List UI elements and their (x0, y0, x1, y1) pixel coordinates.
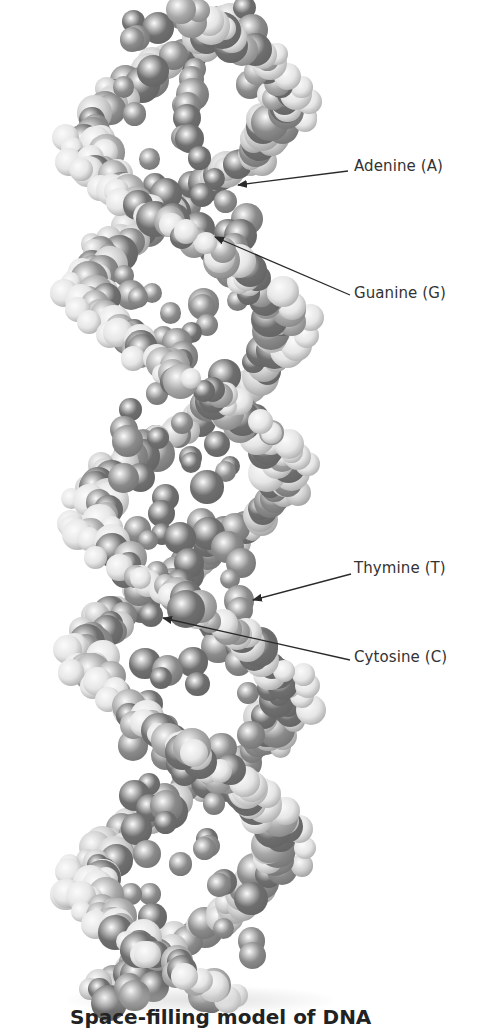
atom-sphere (213, 918, 234, 939)
atom-sphere (137, 55, 169, 87)
atom-sphere (188, 146, 211, 169)
atom-sphere (128, 287, 148, 307)
atom-sphere (123, 102, 146, 125)
atom-sphere (190, 183, 214, 207)
atom-sphere (203, 792, 226, 815)
atom-sphere (237, 721, 266, 750)
atom-sphere (139, 883, 161, 905)
atom-sphere (193, 837, 216, 860)
atom-sphere (190, 470, 224, 504)
atom-sphere (154, 811, 177, 834)
atom-sphere (171, 412, 193, 434)
atom-sphere (134, 941, 161, 968)
atom-sphere (174, 219, 198, 243)
atom-sphere (180, 739, 208, 767)
atom-sphere (185, 672, 210, 697)
atom-sphere (234, 882, 268, 916)
atom-sphere (292, 663, 315, 686)
atom-sphere (160, 302, 182, 324)
atom-sphere (169, 852, 192, 875)
atom-sphere (120, 27, 144, 51)
label-thymine: Thymine (T) (354, 559, 446, 577)
atom-sphere (139, 148, 161, 170)
atom-sphere (181, 452, 202, 473)
label-adenine: Adenine (A) (354, 157, 443, 175)
atom-sphere (113, 76, 134, 97)
atom-sphere (133, 840, 161, 868)
atom-sphere (150, 667, 172, 689)
atom-sphere (112, 425, 143, 456)
atom-sphere (84, 546, 107, 569)
atom-sphere (267, 276, 299, 308)
atom-sphere (121, 346, 145, 370)
label-cytosine: Cytosine (C) (354, 648, 447, 666)
atom-sphere (108, 463, 138, 493)
atom-sphere (239, 942, 266, 969)
atom-sphere (139, 603, 163, 627)
label-guanine: Guanine (G) (354, 284, 446, 302)
atom-sphere (237, 682, 259, 704)
atom-sphere (69, 158, 93, 182)
atom-sphere (248, 409, 273, 434)
figure-caption: Space-filling model of DNA (70, 1005, 371, 1029)
